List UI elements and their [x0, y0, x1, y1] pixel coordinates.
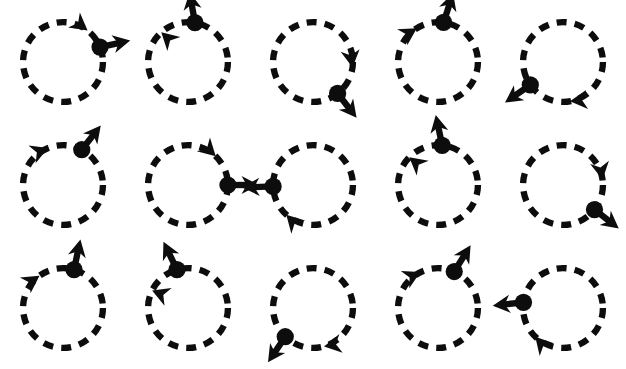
dashed-orbit-circle: [273, 145, 353, 225]
rotate-clockwise-dot-top-cell[interactable]: [0, 246, 125, 369]
rotate-clockwise-dot-top-icon: [4, 249, 122, 367]
rotate-counterclockwise-dot-upper-left-cell[interactable]: [125, 246, 250, 369]
rotate-counterclockwise-dot-lower-left-icon: [254, 249, 372, 367]
rotate-clockwise-dot-right-icon: [4, 3, 122, 121]
rotate-counterclockwise-dot-top-icon: [379, 126, 497, 244]
orbit-marker-dot: [446, 262, 463, 279]
rotation-direction-arrow-icon: [161, 32, 180, 51]
rotation-direction-arrow-icon: [409, 157, 428, 175]
orbit-marker-dot: [586, 200, 603, 217]
orbit-marker-dot: [329, 84, 346, 101]
dashed-orbit-circle: [148, 22, 228, 102]
orbit-marker-dot: [434, 136, 451, 153]
rotate-counterclockwise-dot-lower-left-cell[interactable]: [250, 246, 375, 369]
dashed-orbit-circle: [23, 145, 103, 225]
rotate-counterclockwise-dot-left-icon: [504, 249, 622, 367]
rotate-clockwise-dot-right-cell[interactable]: [125, 123, 250, 246]
rotate-clockwise-dot-upper-right-icon: [4, 126, 122, 244]
orbit-marker-dot: [435, 13, 452, 30]
rotate-clockwise-dot-top-icon: [379, 3, 497, 121]
icon-grid: [0, 0, 626, 369]
orbit-marker-dot: [91, 38, 108, 55]
rotate-clockwise-dot-right-icon: [129, 126, 247, 244]
rotate-counterclockwise-dot-top-cell[interactable]: [125, 0, 250, 123]
rotate-clockwise-dot-upper-right-cell[interactable]: [0, 123, 125, 246]
dashed-orbit-circle: [23, 22, 103, 102]
rotate-counterclockwise-dot-lower-left-cell[interactable]: [501, 0, 626, 123]
rotate-counterclockwise-dot-top-icon: [129, 3, 247, 121]
icon-sheet: [0, 0, 626, 369]
rotate-clockwise-dot-lower-right-cell[interactable]: [501, 123, 626, 246]
orbit-marker-dot: [277, 328, 294, 345]
dashed-orbit-circle: [523, 268, 603, 348]
orbit-marker-dot: [186, 14, 203, 31]
rotate-counterclockwise-dot-left-cell[interactable]: [250, 123, 375, 246]
rotation-direction-arrow-icon: [397, 28, 417, 45]
rotation-direction-arrow-icon: [324, 334, 343, 353]
orbit-marker-dot: [168, 260, 185, 277]
dashed-orbit-circle: [148, 268, 228, 348]
rotate-clockwise-dot-lower-right-icon: [504, 126, 622, 244]
orbit-marker-dot: [264, 177, 281, 194]
orbit-marker-dot: [219, 176, 236, 193]
orbit-marker-dot: [515, 293, 532, 310]
rotate-counterclockwise-dot-left-icon: [254, 126, 372, 244]
rotate-clockwise-dot-right-cell[interactable]: [0, 0, 125, 123]
orbit-marker-dot: [73, 141, 90, 158]
rotate-clockwise-dot-top-cell[interactable]: [376, 0, 501, 123]
rotate-counterclockwise-dot-lower-left-icon: [504, 3, 622, 121]
dashed-orbit-circle: [148, 145, 228, 225]
rotation-direction-arrow-icon: [68, 12, 87, 30]
dashed-orbit-circle: [398, 145, 478, 225]
rotate-counterclockwise-dot-upper-left-icon: [129, 249, 247, 367]
rotate-counterclockwise-dot-top-cell[interactable]: [376, 123, 501, 246]
orbit-marker-dot: [522, 76, 539, 93]
rotate-clockwise-dot-lower-right-icon: [254, 3, 372, 121]
rotate-counterclockwise-dot-left-cell[interactable]: [501, 246, 626, 369]
rotation-direction-arrow-icon: [152, 288, 172, 306]
rotate-clockwise-dot-lower-right-cell[interactable]: [250, 0, 375, 123]
rotate-clockwise-dot-upper-right-cell[interactable]: [376, 246, 501, 369]
orbit-marker-dot: [65, 260, 82, 277]
rotate-clockwise-dot-upper-right-icon: [379, 249, 497, 367]
